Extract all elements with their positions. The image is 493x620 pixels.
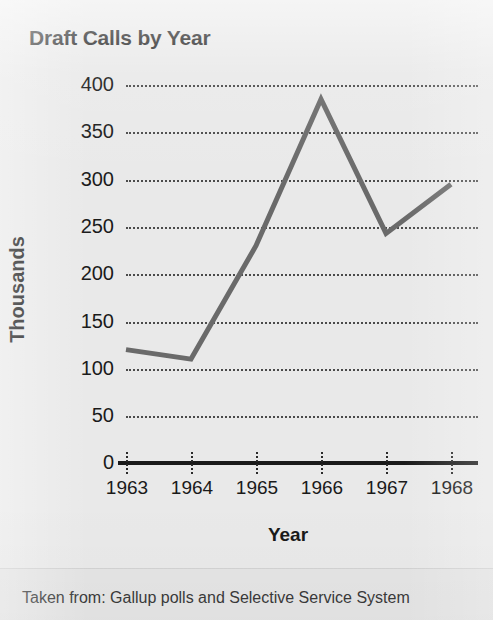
chart-figure: Draft Calls by Year 400 350 300 250 200 … [0, 0, 493, 620]
data-series-line [0, 0, 493, 620]
plot-area: 400 350 300 250 200 150 100 50 0 Thousan… [0, 0, 493, 620]
